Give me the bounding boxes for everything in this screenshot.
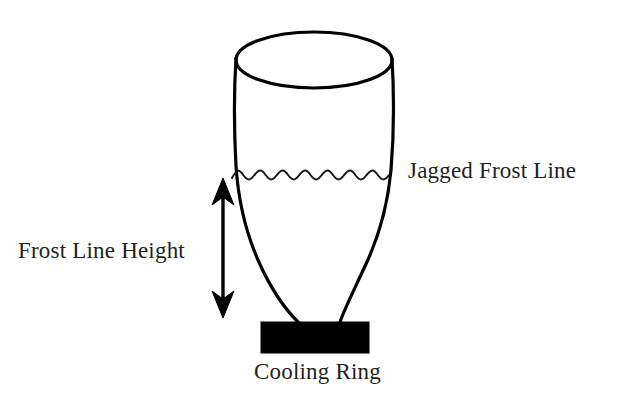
bubble-diagram-svg <box>0 0 619 411</box>
label-jagged-frost-line: Jagged Frost Line <box>408 158 576 184</box>
label-cooling-ring: Cooling Ring <box>254 359 381 385</box>
bubble-left-profile <box>235 58 299 322</box>
jagged-frost-line-path <box>232 171 389 180</box>
bubble-right-profile <box>340 58 393 322</box>
figure-canvas: Figure frost y Jagged Frost Line Frost L… <box>0 0 619 411</box>
cooling-ring-block <box>261 322 369 353</box>
frost-line-height-arrow <box>212 178 234 318</box>
label-frost-line-height: Frost Line Height <box>18 238 185 264</box>
bubble-top-opening-ellipse <box>236 32 392 88</box>
